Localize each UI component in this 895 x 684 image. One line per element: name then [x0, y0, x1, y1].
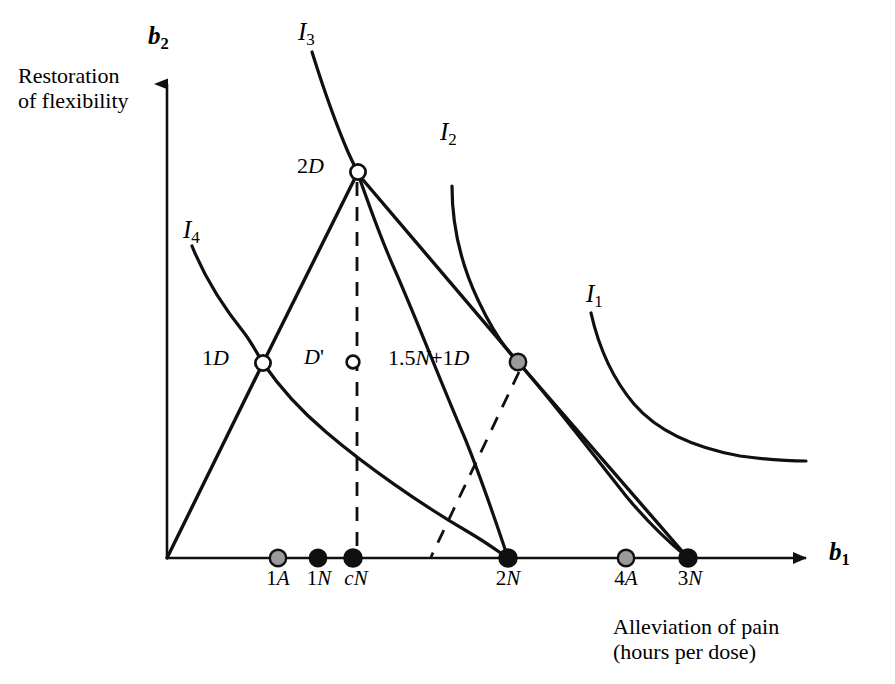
x-axis-caption: Alleviation of pain (hours per dose) — [613, 614, 779, 665]
x-axis-variable-subscript: 1 — [842, 550, 850, 569]
point-label-d-prime: D' — [304, 344, 324, 369]
curve-label-i1: I1 — [586, 280, 603, 309]
point-4a[interactable] — [618, 550, 634, 566]
x-axis-caption-line2: (hours per dose) — [613, 639, 779, 664]
tick-label-4a: 4A — [614, 566, 637, 590]
point-d-prime[interactable] — [347, 356, 360, 369]
point-1d[interactable] — [255, 355, 270, 370]
tick-label-3n: 3N — [678, 566, 703, 590]
tick-label-2n: 2N — [496, 566, 521, 590]
point-2n[interactable] — [499, 549, 516, 566]
dashed-budget-line — [431, 372, 519, 557]
point-label-2d-text: D — [308, 153, 324, 178]
x-axis-variable-letter: b — [829, 538, 842, 565]
curve-i1 — [591, 313, 806, 461]
curve-label-i1-subscript: 1 — [594, 292, 603, 311]
y-axis-variable-label: b2 — [148, 22, 169, 51]
tick-label-1a: 1A — [266, 566, 289, 590]
y-axis-caption: Restoration of flexibility — [18, 63, 129, 114]
x-axis-caption-line1: Alleviation of pain — [613, 614, 779, 639]
y-axis-variable-letter: b — [148, 22, 161, 49]
point-3n[interactable] — [679, 549, 696, 566]
point-1n[interactable] — [310, 550, 326, 566]
point-cn[interactable] — [344, 549, 361, 566]
y-axis-caption-line2: of flexibility — [18, 88, 129, 113]
curve-label-i2: I2 — [440, 118, 457, 147]
axis-lines — [167, 84, 806, 558]
curve-label-i3-subscript: 3 — [306, 30, 315, 49]
curve-label-i4: I4 — [183, 216, 200, 245]
curve-label-i2-subscript: 2 — [448, 130, 457, 149]
curve-label-i4-subscript: 4 — [191, 228, 200, 247]
point-label-mix-d: D — [454, 345, 470, 370]
point-1p5n-plus-1d[interactable] — [510, 354, 526, 370]
point-label-mix-n: N — [416, 345, 431, 370]
x-axis-variable-label: b1 — [829, 538, 850, 567]
curve-label-i3: I3 — [298, 18, 315, 47]
y-axis-variable-subscript: 2 — [161, 34, 169, 53]
y-axis-caption-line1: Restoration — [18, 63, 129, 88]
figure-canvas — [0, 0, 895, 684]
point-2d[interactable] — [350, 164, 365, 179]
point-label-d-prime-text: D — [304, 344, 320, 369]
point-label-1d-text: D — [213, 345, 229, 370]
point-label-mix: 1.5N+1D — [388, 345, 470, 370]
tick-label-1n: 1N — [307, 566, 332, 590]
indifference-curve-figure: b2 Restoration of flexibility b1 Allevia… — [0, 0, 895, 684]
point-1a[interactable] — [270, 550, 286, 566]
point-label-2d: 2D — [297, 153, 324, 178]
point-label-1d: 1D — [202, 345, 229, 370]
tick-label-cn: cN — [344, 566, 367, 590]
